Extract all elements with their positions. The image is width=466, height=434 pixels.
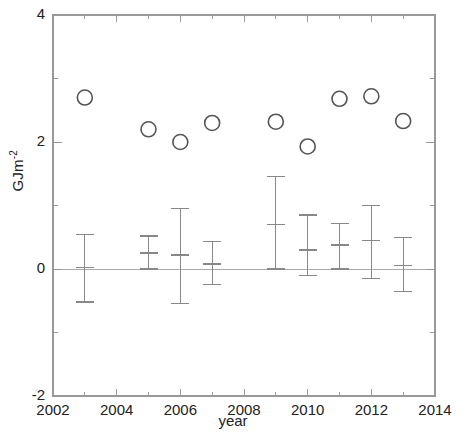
error-bar <box>362 206 380 279</box>
error-bar <box>140 236 158 269</box>
x-tick-label: 2014 <box>405 401 465 418</box>
y-tick-label: 4 <box>5 5 45 22</box>
y-tick-label: 0 <box>5 259 45 276</box>
x-tick-label: 2004 <box>87 401 147 418</box>
data-point-circle <box>332 91 347 106</box>
data-point-circle <box>364 89 379 104</box>
error-bar <box>171 209 189 304</box>
plot-svg <box>0 0 466 434</box>
data-point-circle <box>173 135 188 150</box>
data-point-circle <box>300 139 315 154</box>
x-tick-label: 2006 <box>150 401 210 418</box>
data-point-circle <box>205 115 220 130</box>
error-bar <box>267 177 285 269</box>
error-bar-series <box>76 177 412 304</box>
x-tick-label: 2002 <box>23 401 83 418</box>
data-point-circle <box>396 114 411 129</box>
x-tick-label: 2010 <box>278 401 338 418</box>
x-tick-label: 2012 <box>341 401 401 418</box>
error-bar <box>203 242 221 285</box>
data-point-circle <box>141 122 156 137</box>
error-bar <box>76 234 94 302</box>
error-bar <box>299 215 317 275</box>
data-point-circle <box>268 114 283 129</box>
chart-figure: GJm-2 year 2002200420062008201020122014-… <box>0 0 466 434</box>
error-bar <box>331 223 349 269</box>
y-tick-label: -2 <box>5 386 45 403</box>
y-tick-label: 2 <box>5 132 45 149</box>
x-tick-label: 2008 <box>214 401 274 418</box>
scatter-marker-series <box>77 89 410 154</box>
error-bar <box>394 237 412 291</box>
data-point-circle <box>77 90 92 105</box>
